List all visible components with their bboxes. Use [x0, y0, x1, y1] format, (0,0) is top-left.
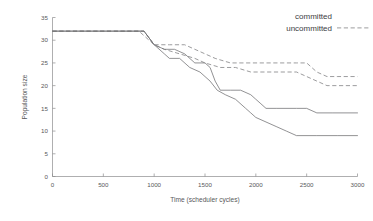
- y-tick-label: 10: [41, 127, 48, 134]
- x-tick-label: 500: [98, 181, 109, 188]
- y-axis-tick-labels: 05101520253035: [41, 14, 48, 180]
- y-tick-label: 20: [41, 82, 48, 89]
- axis-ticks-group: [53, 18, 358, 177]
- y-tick-label: 30: [41, 36, 48, 43]
- data-series-group: [53, 31, 358, 135]
- x-axis-tick-labels: 050010001500200025003000: [51, 181, 365, 188]
- line-chart-svg: 050010001500200025003000 05101520253035 …: [0, 0, 373, 221]
- y-tick-label: 5: [45, 150, 49, 157]
- series-line-committed-b: [53, 31, 358, 135]
- legend-label-uncommitted: uncommitted: [286, 24, 332, 33]
- x-tick-label: 2500: [300, 181, 314, 188]
- y-tick-label: 0: [45, 173, 49, 180]
- axes-group: [53, 18, 358, 177]
- x-axis-title: Time (scheduler cycles): [170, 196, 239, 204]
- series-line-uncommitted-b: [53, 31, 358, 86]
- x-tick-label: 1000: [147, 181, 161, 188]
- x-tick-label: 0: [51, 181, 55, 188]
- y-tick-label: 25: [41, 59, 48, 66]
- chart-container: 050010001500200025003000 05101520253035 …: [0, 0, 373, 221]
- x-tick-label: 3000: [351, 181, 365, 188]
- x-tick-label: 1500: [198, 181, 212, 188]
- series-line-uncommitted-a: [53, 31, 358, 76]
- chart-legend: committeduncommitted: [286, 12, 371, 33]
- series-line-committed-a: [53, 31, 358, 113]
- y-tick-label: 15: [41, 105, 48, 112]
- legend-label-committed: committed: [295, 12, 332, 21]
- y-axis-title: Population size: [21, 74, 29, 119]
- y-tick-label: 35: [41, 14, 48, 21]
- x-tick-label: 2000: [249, 181, 263, 188]
